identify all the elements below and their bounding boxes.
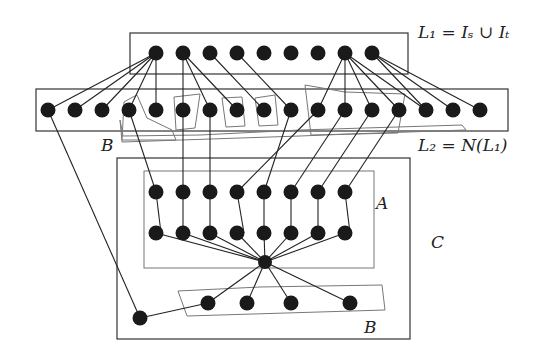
edge	[345, 53, 399, 110]
node-l2	[446, 103, 461, 118]
node-a-top	[176, 185, 191, 200]
edge	[48, 110, 140, 318]
graph-diagram: L₁ = Iₛ ∪ Iₜ L₂ = N(L₁) B A C B	[0, 0, 537, 359]
edge	[318, 53, 345, 110]
node-a-bottom	[284, 226, 299, 241]
node-a-top	[284, 185, 299, 200]
node-l1	[176, 46, 191, 61]
node-l2	[68, 103, 83, 118]
node-l2	[176, 103, 191, 118]
node-l2	[419, 103, 434, 118]
node-l2	[392, 103, 407, 118]
edge	[372, 53, 480, 110]
edge	[75, 53, 156, 110]
node-l1	[230, 46, 245, 61]
node-a-top	[311, 185, 326, 200]
node-a-top	[230, 185, 245, 200]
edge	[183, 233, 265, 262]
edge	[129, 110, 156, 192]
edge	[210, 53, 264, 110]
node-lone	[133, 311, 148, 326]
node-l2	[257, 103, 272, 118]
A-box	[144, 171, 374, 268]
node-l2	[284, 103, 299, 118]
node-b-bottom	[240, 296, 255, 311]
C-label: C	[431, 232, 444, 252]
B-label-bottom: B	[363, 317, 377, 337]
edge	[345, 53, 372, 110]
L2-label: L₂ = N(L₁)	[417, 135, 507, 155]
node-l1	[338, 46, 353, 61]
edge	[183, 53, 237, 110]
edge	[183, 53, 210, 110]
edge	[318, 110, 372, 192]
node-l2	[122, 103, 137, 118]
edge	[102, 53, 156, 110]
node-l2	[95, 103, 110, 118]
node-l1	[284, 46, 299, 61]
edge	[345, 110, 399, 192]
node-b-bottom	[284, 296, 299, 311]
node-l2	[230, 103, 245, 118]
B-region-top-1	[122, 95, 176, 140]
node-l1	[365, 46, 380, 61]
node-a-top	[338, 185, 353, 200]
node-b-bottom	[201, 296, 216, 311]
node-a-top	[257, 185, 272, 200]
node-a-bottom	[203, 226, 218, 241]
node-l1	[203, 46, 218, 61]
node-a-bottom	[176, 226, 191, 241]
node-l1	[149, 46, 164, 61]
edge	[345, 53, 426, 110]
node-l2	[338, 103, 353, 118]
node-a-bottom	[149, 226, 164, 241]
node-l2	[365, 103, 380, 118]
node-l1	[257, 46, 272, 61]
node-hub	[258, 255, 272, 269]
node-l2	[41, 103, 56, 118]
node-a-bottom	[257, 226, 272, 241]
edge	[291, 110, 345, 192]
edge	[129, 53, 156, 110]
node-b-bottom	[343, 296, 358, 311]
node-l2	[203, 103, 218, 118]
node-a-bottom	[311, 226, 326, 241]
L1-label: L₁ = Iₛ ∪ Iₜ	[417, 22, 510, 42]
edge	[237, 53, 291, 110]
node-l2	[473, 103, 488, 118]
node-a-bottom	[230, 226, 245, 241]
node-a-top	[203, 185, 218, 200]
node-l2	[311, 103, 326, 118]
A-label: A	[374, 193, 388, 213]
node-a-bottom	[338, 226, 353, 241]
node-a-top	[149, 185, 164, 200]
edge	[372, 53, 426, 110]
edge	[265, 233, 345, 262]
B-label-top: B	[100, 135, 114, 155]
node-l1	[311, 46, 326, 61]
edge	[372, 53, 453, 110]
node-l2	[149, 103, 164, 118]
